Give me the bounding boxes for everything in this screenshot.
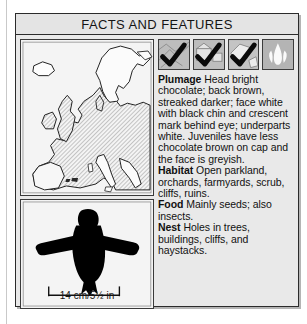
habitat-icon-3 <box>228 39 260 70</box>
facts-and-features-panel: FACTS AND FEATURES <box>15 13 299 307</box>
fact-food: Food Mainly seeds; also insects. <box>158 199 294 222</box>
facts-text-block: Plumage Head bright chocolate; back brow… <box>158 74 294 257</box>
fact-nest: Nest Holes in trees, buildings, cliffs, … <box>158 222 294 256</box>
silhouette-panel: 14 cm/5½ in <box>20 199 154 309</box>
panel-body: 14 cm/5½ in <box>16 35 298 306</box>
fact-plumage-text: Head bright chocolate; back brown, strea… <box>158 73 290 165</box>
habitat-icon-row <box>158 39 294 70</box>
scale-caption: 14 cm/5½ in <box>21 290 153 301</box>
habitat-icon-4 <box>262 39 294 70</box>
fact-plumage-label: Plumage <box>158 73 201 85</box>
left-column: 14 cm/5½ in <box>20 39 154 302</box>
fact-plumage: Plumage Head bright chocolate; back brow… <box>158 74 294 165</box>
right-column: Plumage Head bright chocolate; back brow… <box>158 39 294 302</box>
fact-food-label: Food <box>158 198 183 210</box>
distribution-map <box>20 39 154 196</box>
fact-habitat: Habitat Open parkland, orchards, farmyar… <box>158 165 294 199</box>
page-margin-rule <box>6 0 7 324</box>
habitat-icon-2 <box>193 39 225 70</box>
fact-nest-label: Nest <box>158 221 181 233</box>
page-title: FACTS AND FEATURES <box>16 14 298 35</box>
fact-habitat-label: Habitat <box>158 164 193 176</box>
habitat-icon-1 <box>158 39 190 70</box>
